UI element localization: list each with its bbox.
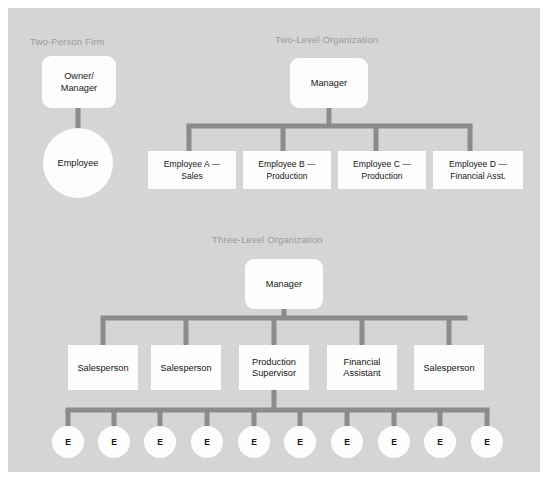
section-title-three-level-organization: Three-Level Organization xyxy=(212,234,323,245)
employee-b-label-line-0: Employee B — xyxy=(258,159,316,169)
production-supervisor-label-line-0: Production xyxy=(252,357,296,367)
connector-manager-stem xyxy=(327,108,332,126)
connector-ps-stem xyxy=(272,390,277,410)
connector-drop-b xyxy=(281,126,286,151)
connector-drop-d xyxy=(468,126,473,151)
connector-leaf-stem-1 xyxy=(66,410,71,426)
node-employee-leaf-4-label: E xyxy=(204,437,210,447)
node-employee-leaf-5-label: E xyxy=(251,437,257,447)
manager-three-level-label-line-0: Manager xyxy=(266,279,302,289)
connector-leaf-stem-6 xyxy=(298,410,303,426)
connector-mgr3-bus xyxy=(101,316,468,321)
section-two-person-firm: Two-Person FirmOwner/ManagerEmployee xyxy=(30,36,116,198)
node-employee-leaf-7-label: E xyxy=(344,437,350,447)
employee-a-label-line-1: Sales xyxy=(181,171,203,181)
connector-leaf-stem-9 xyxy=(438,410,443,426)
connector-drop-s1 xyxy=(101,318,106,345)
production-supervisor-label-line-1: Supervisor xyxy=(252,368,296,378)
connector-leaf-stem-5 xyxy=(252,410,257,426)
financial-assistant-label-line-1: Assistant xyxy=(343,368,381,378)
section-title-two-level-organization: Two-Level Organization xyxy=(275,34,378,45)
connector-leaf-stem-2 xyxy=(112,410,117,426)
node-employee-leaf-6-label: E xyxy=(297,437,303,447)
section-two-level-organization: Two-Level OrganizationManagerEmployee A … xyxy=(148,34,523,189)
node-employee-leaf-8-label: E xyxy=(391,437,397,447)
section-title-two-person-firm: Two-Person Firm xyxy=(30,36,105,47)
manager-two-level-label-line-0: Manager xyxy=(311,78,347,88)
connector-leaf-stem-8 xyxy=(392,410,397,426)
employee-d-label-line-1: Financial Asst. xyxy=(450,171,505,181)
employee-a-label-line-0: Employee A — xyxy=(164,159,221,169)
employee-c-label-line-0: Employee C — xyxy=(353,159,411,169)
employee-c-label-line-1: Production xyxy=(361,171,402,181)
connector-drop-fa xyxy=(360,318,365,345)
node-employee-leaf-9-label: E xyxy=(437,437,443,447)
connector-drop-a xyxy=(187,126,192,151)
employee-circle-label-line-0: Employee xyxy=(58,158,99,168)
owner-manager-label-line-1: Manager xyxy=(61,83,97,93)
connector-leaf-stem-7 xyxy=(345,410,350,426)
connector-leaf-stem-3 xyxy=(158,410,163,426)
connector-owner-to-employee xyxy=(76,108,81,130)
organization-chart-diagram: Two-Person FirmOwner/ManagerEmployeeTwo-… xyxy=(0,0,552,486)
connector-drop-s2 xyxy=(184,318,189,345)
connector-drop-ps xyxy=(272,318,277,345)
section-three-level-organization: Three-Level OrganizationManagerSalespers… xyxy=(52,234,503,458)
connector-drop-c xyxy=(374,126,379,151)
employee-d-label-line-0: Employee D — xyxy=(449,159,507,169)
employee-b-label-line-1: Production xyxy=(266,171,307,181)
salesperson-1-label-line-0: Salesperson xyxy=(77,363,128,373)
connector-leaf-stem-4 xyxy=(205,410,210,426)
owner-manager-label-line-0: Owner/ xyxy=(64,71,94,81)
financial-assistant-label-line-0: Financial xyxy=(344,357,381,367)
organization-chart-page: Two-Person FirmOwner/ManagerEmployeeTwo-… xyxy=(0,0,552,486)
node-employee-leaf-3-label: E xyxy=(157,437,163,447)
node-employee-leaf-2-label: E xyxy=(111,437,117,447)
connector-leaf-bus xyxy=(66,408,490,413)
node-employee-leaf-10-label: E xyxy=(484,437,490,447)
connector-leaf-stem-10 xyxy=(485,410,490,426)
salesperson-2-label-line-0: Salesperson xyxy=(160,363,211,373)
connector-manager-bus xyxy=(187,124,473,129)
connector-drop-s3 xyxy=(447,318,452,345)
node-employee-leaf-1-label: E xyxy=(65,437,71,447)
salesperson-3-label-line-0: Salesperson xyxy=(423,363,474,373)
